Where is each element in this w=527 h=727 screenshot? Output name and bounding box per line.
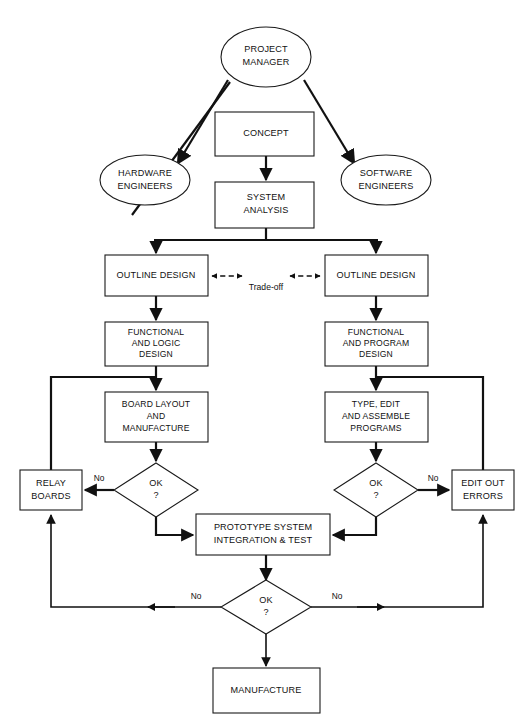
- node-functional-program-design[interactable]: FUNCTIONAL AND PROGRAM DESIGN: [325, 322, 428, 366]
- node-project-manager-line2: MANAGER: [242, 57, 289, 67]
- node-board-layout-manufacture-line2: AND: [147, 411, 166, 421]
- node-type-edit-assemble-programs[interactable]: TYPE, EDIT AND ASSEMBLE PROGRAMS: [325, 392, 428, 442]
- node-prototype-system-line2: INTEGRATION & TEST: [214, 535, 313, 545]
- node-relay-boards-line1: RELAY: [36, 478, 66, 488]
- edge-decision-hw-to-prototype: [156, 517, 193, 535]
- node-decision-final-ok-line1: OK: [259, 595, 272, 605]
- edge-label-no-software: No: [428, 473, 439, 483]
- edge-decision-sw-to-prototype: [333, 517, 376, 535]
- node-layer: PROJECT MANAGER HARDWARE ENGINEERS SOFTW…: [20, 27, 514, 713]
- edge-label-trade-off: Trade-off: [249, 282, 284, 292]
- node-decision-final-ok[interactable]: OK ?: [221, 580, 311, 634]
- node-software-engineers[interactable]: SOFTWARE ENGINEERS: [341, 155, 431, 205]
- node-functional-logic-design-line3: DESIGN: [139, 349, 173, 359]
- node-edit-out-errors-line2: ERRORS: [463, 491, 503, 501]
- node-decision-hardware-ok[interactable]: OK ?: [114, 463, 198, 517]
- edge-label-no-final-right: No: [332, 591, 343, 601]
- node-project-manager-line1: PROJECT: [244, 44, 288, 54]
- node-project-manager[interactable]: PROJECT MANAGER: [221, 27, 311, 87]
- node-decision-final-ok-line2: ?: [263, 607, 268, 617]
- node-system-analysis-line2: ANALYSIS: [243, 205, 288, 215]
- node-decision-software-ok-line2: ?: [373, 490, 378, 500]
- flowchart-canvas: PROJECT MANAGER HARDWARE ENGINEERS SOFTW…: [0, 0, 527, 727]
- node-relay-boards-line2: BOARDS: [31, 491, 70, 501]
- node-board-layout-manufacture-line3: MANUFACTURE: [122, 423, 189, 433]
- node-outline-design-hardware[interactable]: OUTLINE DESIGN: [105, 255, 208, 296]
- node-prototype-system-line1: PROTOTYPE SYSTEM: [214, 522, 312, 532]
- node-hardware-engineers-line2: ENGINEERS: [118, 181, 173, 191]
- node-functional-logic-design[interactable]: FUNCTIONAL AND LOGIC DESIGN: [105, 322, 208, 366]
- node-outline-design-software-label: OUTLINE DESIGN: [337, 270, 416, 280]
- node-software-engineers-line1: SOFTWARE: [360, 168, 412, 178]
- edge-label-no-final-left: No: [191, 591, 202, 601]
- node-decision-hardware-ok-line1: OK: [149, 478, 162, 488]
- node-concept-label: CONCEPT: [243, 128, 289, 138]
- node-functional-program-design-line2: AND PROGRAM: [343, 338, 410, 348]
- flowchart-svg: PROJECT MANAGER HARDWARE ENGINEERS SOFTW…: [0, 0, 527, 727]
- node-system-analysis[interactable]: SYSTEM ANALYSIS: [215, 182, 314, 228]
- node-relay-boards[interactable]: RELAY BOARDS: [20, 470, 82, 510]
- edge-label-no-hardware: No: [94, 473, 105, 483]
- node-outline-design-software[interactable]: OUTLINE DESIGN: [325, 255, 428, 296]
- node-concept[interactable]: CONCEPT: [215, 112, 314, 156]
- node-type-edit-assemble-programs-line3: PROGRAMS: [350, 423, 401, 433]
- node-hardware-engineers[interactable]: HARDWARE ENGINEERS: [100, 155, 190, 205]
- node-edit-out-errors-line1: EDIT OUT: [461, 478, 505, 488]
- node-hardware-engineers-line1: HARDWARE: [118, 168, 172, 178]
- node-type-edit-assemble-programs-line2: AND ASSEMBLE: [342, 411, 410, 421]
- node-decision-software-ok[interactable]: OK ?: [334, 463, 418, 517]
- node-functional-logic-design-line2: AND LOGIC: [132, 338, 181, 348]
- node-outline-design-hardware-label: OUTLINE DESIGN: [117, 270, 196, 280]
- node-software-engineers-line2: ENGINEERS: [359, 181, 414, 191]
- node-type-edit-assemble-programs-line1: TYPE, EDIT: [352, 399, 401, 409]
- node-functional-program-design-line1: FUNCTIONAL: [348, 327, 404, 337]
- node-prototype-system[interactable]: PROTOTYPE SYSTEM INTEGRATION & TEST: [196, 514, 330, 555]
- node-board-layout-manufacture[interactable]: BOARD LAYOUT AND MANUFACTURE: [105, 392, 208, 442]
- node-functional-program-design-line3: DESIGN: [359, 349, 393, 359]
- node-manufacture[interactable]: MANUFACTURE: [213, 668, 320, 713]
- node-decision-software-ok-line1: OK: [369, 478, 382, 488]
- node-manufacture-label: MANUFACTURE: [231, 685, 302, 695]
- node-decision-hardware-ok-line2: ?: [153, 490, 158, 500]
- node-edit-out-errors[interactable]: EDIT OUT ERRORS: [452, 470, 514, 510]
- node-system-analysis-line1: SYSTEM: [247, 192, 285, 202]
- node-board-layout-manufacture-line1: BOARD LAYOUT: [122, 399, 191, 409]
- node-functional-logic-design-line1: FUNCTIONAL: [128, 327, 184, 337]
